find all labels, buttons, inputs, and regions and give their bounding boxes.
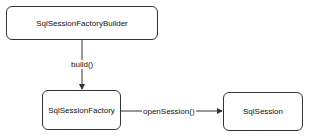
node-sqlsessionfactorybuilder[interactable]: SqlSessionFactoryBuilder: [6, 6, 158, 40]
node-label: SqlSessionFactory: [48, 106, 115, 115]
diagram-canvas: SqlSessionFactoryBuilder SqlSessionFacto…: [0, 0, 309, 139]
edge-label-build: build(): [70, 60, 94, 69]
node-label: SqlSession: [243, 107, 283, 116]
edge-label-open-session: openSession(): [142, 107, 196, 116]
node-sqlsession[interactable]: SqlSession: [223, 92, 303, 131]
node-label: SqlSessionFactoryBuilder: [36, 19, 128, 28]
node-sqlsessionfactory[interactable]: SqlSessionFactory: [42, 90, 121, 130]
